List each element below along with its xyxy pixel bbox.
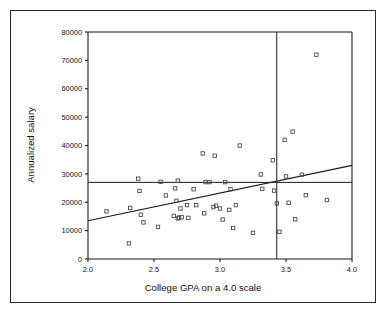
y-tick-label: 50000 bbox=[61, 113, 82, 122]
data-point bbox=[272, 189, 275, 192]
x-tick-label: 2.0 bbox=[83, 265, 93, 274]
data-point bbox=[156, 225, 159, 228]
data-point bbox=[238, 144, 241, 147]
y-tick-label: 10000 bbox=[61, 226, 82, 235]
x-tick-label: 3.0 bbox=[215, 265, 225, 274]
data-point bbox=[259, 173, 262, 176]
scatter-plot-figure: 0100002000030000400005000060000700008000… bbox=[0, 0, 386, 316]
data-point bbox=[136, 177, 139, 180]
data-point bbox=[218, 207, 221, 210]
data-point bbox=[315, 53, 318, 56]
data-point bbox=[271, 159, 274, 162]
data-point bbox=[142, 221, 145, 224]
data-point bbox=[195, 203, 198, 206]
data-point bbox=[129, 206, 132, 209]
data-point bbox=[164, 194, 167, 197]
data-point bbox=[221, 218, 224, 221]
data-point bbox=[139, 213, 142, 216]
data-point bbox=[283, 138, 286, 141]
data-point bbox=[192, 188, 195, 191]
x-tick-label: 3.5 bbox=[281, 265, 291, 274]
data-point bbox=[251, 231, 254, 234]
x-tick-label: 4.0 bbox=[347, 265, 357, 274]
data-point bbox=[176, 179, 179, 182]
y-tick-label: 40000 bbox=[61, 141, 82, 150]
x-axis-title: College GPA on a 4.0 scale bbox=[145, 282, 262, 293]
data-point bbox=[284, 175, 287, 178]
data-point bbox=[201, 152, 204, 155]
regression-line-group bbox=[88, 165, 352, 220]
data-point bbox=[187, 216, 190, 219]
data-point bbox=[213, 154, 216, 157]
data-point bbox=[159, 180, 162, 183]
data-point bbox=[105, 210, 108, 213]
data-point bbox=[127, 242, 130, 245]
data-point bbox=[234, 203, 237, 206]
data-point bbox=[202, 212, 205, 215]
y-axis-tick-group: 0100002000030000400005000060000700008000… bbox=[61, 28, 88, 264]
data-point bbox=[278, 230, 281, 233]
y-axis-title: Annualized salary bbox=[25, 107, 36, 183]
data-point bbox=[232, 226, 235, 229]
data-point bbox=[172, 214, 175, 217]
data-point bbox=[291, 130, 294, 133]
data-point bbox=[138, 189, 141, 192]
data-point bbox=[304, 193, 307, 196]
data-point bbox=[179, 207, 182, 210]
data-point bbox=[294, 218, 297, 221]
data-point bbox=[185, 203, 188, 206]
data-point-group bbox=[105, 53, 329, 245]
y-tick-label: 0 bbox=[78, 255, 82, 264]
y-tick-label: 70000 bbox=[61, 56, 82, 65]
data-point bbox=[173, 187, 176, 190]
data-point bbox=[287, 201, 290, 204]
x-axis-tick-group: 2.02.53.03.54.0 bbox=[83, 259, 357, 274]
data-point bbox=[325, 198, 328, 201]
chart-canvas: 0100002000030000400005000060000700008000… bbox=[0, 0, 386, 316]
x-tick-label: 2.5 bbox=[149, 265, 159, 274]
data-point bbox=[261, 187, 264, 190]
y-tick-label: 20000 bbox=[61, 198, 82, 207]
y-tick-label: 60000 bbox=[61, 84, 82, 93]
data-point bbox=[228, 208, 231, 211]
y-tick-label: 30000 bbox=[61, 170, 82, 179]
reference-line-group bbox=[88, 32, 352, 259]
regression-line bbox=[88, 165, 352, 220]
y-tick-label: 80000 bbox=[61, 28, 82, 37]
